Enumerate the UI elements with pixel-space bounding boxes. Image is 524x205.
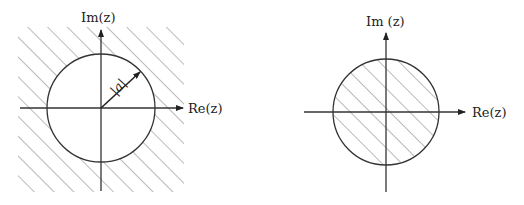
figure: Im(z) Re(z) |a| Im (z) Re(z) xyxy=(0,0,524,205)
im-label: Im(z) xyxy=(81,10,115,25)
right-diagram: Im (z) Re(z) xyxy=(304,14,506,192)
re-label: Re(z) xyxy=(188,101,222,116)
left-diagram: Im(z) Re(z) |a| xyxy=(18,10,222,192)
re-label: Re(z) xyxy=(472,105,506,120)
im-label: Im (z) xyxy=(366,14,405,29)
